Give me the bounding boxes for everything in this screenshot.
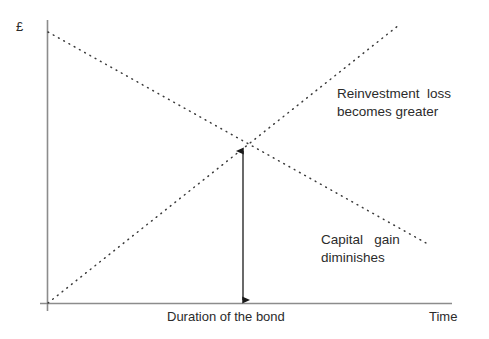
bond-duration-chart: £ Time Duration of the bond Reinvestment… [0,0,489,339]
capital-gain-annotation: Capital gain diminishes [321,231,400,267]
reinvestment-loss-annotation-line-2: becomes greater [337,103,451,121]
capital-gain-annotation-line-2: diminishes [321,249,400,267]
x-axis-label: Time [429,310,457,323]
reinvestment-loss-annotation: Reinvestment loss becomes greater [337,85,451,121]
y-axis-label: £ [16,20,23,33]
capital-gain-line [48,32,426,243]
reinvestment-loss-annotation-line-1: Reinvestment loss [337,85,451,103]
chart-canvas [0,0,489,339]
capital-gain-annotation-line-1: Capital gain [321,231,400,249]
duration-of-bond-label: Duration of the bond [167,310,285,323]
